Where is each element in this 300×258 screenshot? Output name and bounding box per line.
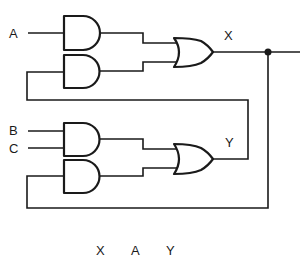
or-gate-1 xyxy=(174,38,213,67)
and-gate-2 xyxy=(64,55,100,88)
input-label-a: A xyxy=(9,27,18,40)
output-label-x: X xyxy=(224,29,233,42)
and-gate-4 xyxy=(64,160,100,193)
wire-feedback-y xyxy=(27,72,248,159)
wire-and1-to-or1 xyxy=(100,33,178,43)
wire-and4-to-or2 xyxy=(100,168,178,176)
and-gate-3 xyxy=(64,123,100,156)
footer-text-a: A xyxy=(131,244,140,257)
and-gate-1 xyxy=(64,16,100,50)
footer-text-x: X xyxy=(96,244,105,257)
footer-text-y: Y xyxy=(166,244,175,257)
wire-and3-to-or2 xyxy=(100,139,178,149)
junction-dot xyxy=(265,49,272,56)
input-label-c: C xyxy=(9,142,18,155)
or-gate-2 xyxy=(174,144,213,174)
input-label-b: B xyxy=(9,124,18,137)
wire-and2-to-or1 xyxy=(100,62,178,71)
output-label-y: Y xyxy=(225,136,234,149)
